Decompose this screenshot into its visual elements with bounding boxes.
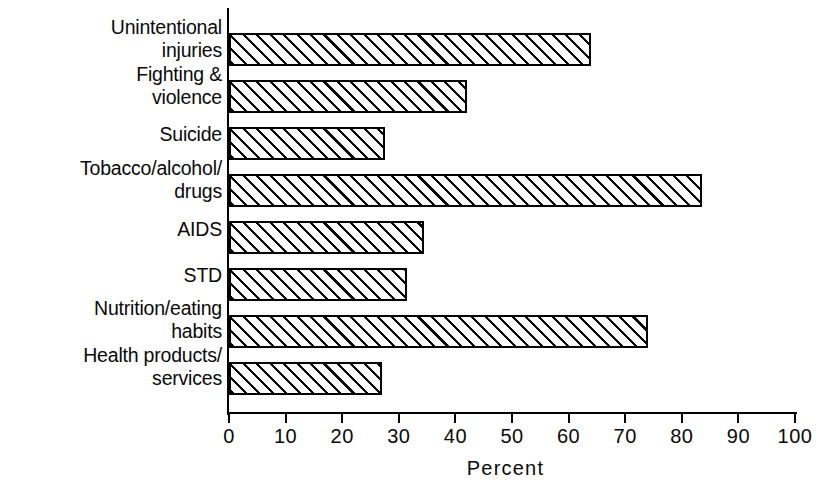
category-axis-labels: Unintentional injuries Fighting & violen…	[0, 0, 222, 413]
x-axis-tick	[398, 414, 400, 423]
x-axis-tick-label: 40	[444, 424, 467, 448]
x-axis-title: Percent	[0, 457, 821, 480]
x-axis-tick-label: 70	[614, 424, 637, 448]
bar-std	[229, 268, 407, 301]
x-axis-tick-label: 50	[500, 424, 523, 448]
bar-suicide	[229, 127, 385, 160]
x-axis-tick-label: 60	[557, 424, 580, 448]
x-axis-tick	[737, 414, 739, 423]
bar-chart: Unintentional injuries Fighting & violen…	[0, 0, 821, 495]
x-axis-tick	[511, 414, 513, 423]
x-axis-tick	[624, 414, 626, 423]
x-axis-tick-label: 100	[778, 424, 813, 448]
category-label-aids: AIDS	[0, 218, 222, 241]
x-axis-title-text: Percent	[467, 457, 544, 479]
x-axis-tick-label: 20	[331, 424, 354, 448]
plot-area	[229, 8, 795, 413]
category-label-tobacco-alcohol-drugs: Tobacco/alcohol/ drugs	[0, 157, 222, 203]
x-axis-tick	[454, 414, 456, 423]
bar-aids	[229, 221, 424, 254]
category-label-suicide: Suicide	[0, 123, 222, 146]
category-label-fighting-violence: Fighting & violence	[0, 63, 222, 109]
bar-health-products-services	[229, 362, 382, 395]
x-axis-tick	[228, 414, 230, 423]
category-label-health-products-services: Health products/ services	[0, 344, 222, 390]
x-axis-tick	[568, 414, 570, 423]
bar-unintentional-injuries	[229, 33, 591, 66]
y-axis-line	[227, 8, 229, 415]
x-axis-tick	[341, 414, 343, 423]
x-axis-tick-label: 10	[274, 424, 297, 448]
category-label-std: STD	[0, 264, 222, 287]
x-axis-tick-label: 90	[727, 424, 750, 448]
x-axis-tick	[285, 414, 287, 423]
x-axis-tick-label: 30	[387, 424, 410, 448]
x-axis-tick-label: 0	[223, 424, 235, 448]
x-axis-tick-label: 80	[670, 424, 693, 448]
x-axis-tick	[794, 414, 796, 423]
category-label-unintentional-injuries: Unintentional injuries	[0, 16, 222, 62]
category-label-nutrition-eating-habits: Nutrition/eating habits	[0, 297, 222, 343]
bar-tobacco-alcohol-drugs	[229, 174, 702, 207]
bar-fighting-violence	[229, 80, 467, 113]
x-axis-tick	[681, 414, 683, 423]
bar-nutrition-eating-habits	[229, 315, 648, 348]
